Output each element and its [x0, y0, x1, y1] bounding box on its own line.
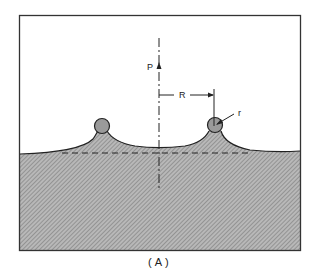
label-P: P	[147, 63, 153, 72]
label-r: r	[238, 109, 241, 118]
left-sphere	[95, 119, 110, 134]
dimension-R-arrowhead	[208, 93, 214, 98]
force-arrow-head	[157, 62, 162, 69]
liquid-region	[20, 131, 300, 250]
right-sphere	[208, 118, 223, 133]
figure-caption: (A)	[148, 257, 172, 268]
label-R: R	[179, 91, 186, 100]
diagram-canvas	[0, 0, 316, 278]
